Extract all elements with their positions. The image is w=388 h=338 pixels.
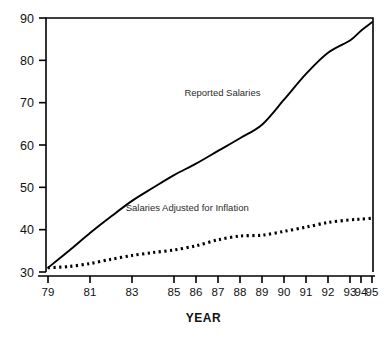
y-tick-label: 70 <box>20 96 34 110</box>
y-tick-label: 60 <box>20 139 34 153</box>
series-line-reported-salaries <box>48 22 372 268</box>
x-tick-label: 83 <box>126 286 139 298</box>
x-tick-label: 85 <box>168 286 181 298</box>
y-tick-label: 90 <box>20 12 34 26</box>
y-tick-label: 80 <box>20 54 34 68</box>
y-tick-label: 40 <box>20 223 34 237</box>
y-tick-label: 30 <box>20 266 34 280</box>
x-tick-label: 90 <box>278 286 291 298</box>
series-label-salaries-adjusted-for-inflation: Salaries Adjusted for Inflation <box>126 202 249 213</box>
line-chart: 3040506070809079818385868788899091929394… <box>0 0 388 338</box>
x-tick-label: 79 <box>42 286 55 298</box>
y-tick-label: 50 <box>20 181 34 195</box>
x-tick-label: 86 <box>190 286 203 298</box>
x-axis-ticks: 7981838586878889909192939495 <box>42 276 379 298</box>
chart-container: 3040506070809079818385868788899091929394… <box>0 0 388 338</box>
x-tick-label: 95 <box>366 286 379 298</box>
x-axis-title: YEAR <box>186 311 222 325</box>
y-axis: 30405060708090 <box>20 12 46 280</box>
x-tick-label: 87 <box>212 286 225 298</box>
series-label-reported-salaries: Reported Salaries <box>184 87 260 98</box>
x-tick-label: 91 <box>300 286 313 298</box>
series-line-salaries-adjusted-for-inflation <box>48 218 372 268</box>
x-tick-label: 92 <box>322 286 335 298</box>
x-tick-label: 88 <box>234 286 247 298</box>
x-tick-label: 81 <box>84 286 97 298</box>
x-tick-label: 89 <box>256 286 269 298</box>
